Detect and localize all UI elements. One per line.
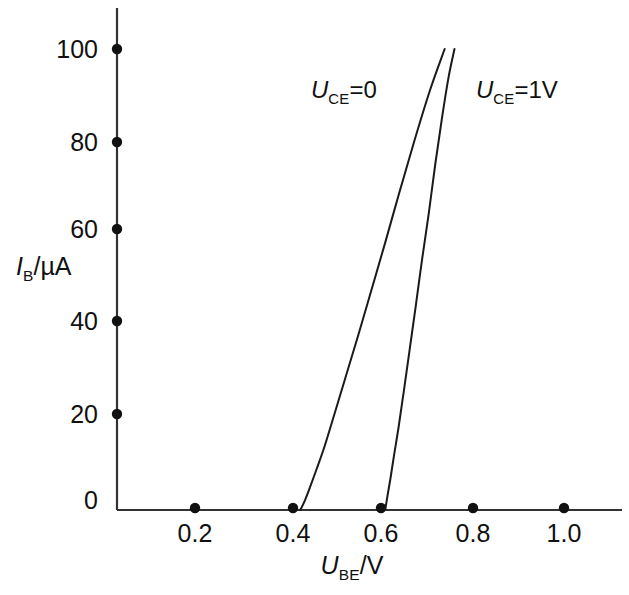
x-axis-title-subscript: BE xyxy=(339,566,360,583)
data-curves xyxy=(300,49,454,510)
x-axis-title-unit: /V xyxy=(360,551,384,579)
y-axis-title-subscript: B xyxy=(23,267,34,284)
curve-annotation-uce-1v-variable: U xyxy=(476,76,493,103)
y-tick-dot xyxy=(112,316,122,326)
curve-annotation-uce-0-value: =0 xyxy=(349,76,376,103)
y-tick-dot xyxy=(112,137,122,147)
y-tick-label-100: 100 xyxy=(40,37,98,62)
x-axis-title: UBE/V xyxy=(321,553,384,583)
y-axis-title-unit: /µA xyxy=(34,252,72,280)
y-tick-label-80: 80 xyxy=(40,130,98,155)
y-tick-dot xyxy=(112,44,122,54)
curve-uce-0 xyxy=(300,49,444,510)
y-tick-dot xyxy=(112,224,122,234)
x-tick-dot xyxy=(190,503,200,513)
x-tick-label-1-0: 1.0 xyxy=(547,521,582,546)
x-tick-label-0-8: 0.8 xyxy=(456,521,491,546)
curve-annotation-uce-0-variable: U xyxy=(311,76,328,103)
curve-annotation-uce-1v-subscript: CE xyxy=(493,91,514,107)
x-tick-label-0-6: 0.6 xyxy=(364,521,399,546)
y-axis-title-variable: I xyxy=(16,252,23,280)
curve-uce-1v xyxy=(385,49,454,510)
x-tick-label-0-4: 0.4 xyxy=(276,521,311,546)
y-axis-title: IB/µA xyxy=(16,254,72,284)
x-axis-tick-markers xyxy=(190,503,569,513)
x-axis-title-variable: U xyxy=(321,551,339,579)
y-tick-label-0: 0 xyxy=(40,488,98,513)
x-tick-dot xyxy=(559,503,569,513)
curve-annotation-uce-0-subscript: CE xyxy=(328,91,349,107)
curve-annotation-uce-1v: UCE=1V xyxy=(476,78,558,107)
y-tick-label-40: 40 xyxy=(40,309,98,334)
x-tick-dot xyxy=(288,503,298,513)
y-tick-label-20: 20 xyxy=(40,402,98,427)
curve-annotation-uce-0: UCE=0 xyxy=(311,78,377,107)
x-tick-label-0-2: 0.2 xyxy=(178,521,213,546)
y-tick-dot xyxy=(112,409,122,419)
curve-annotation-uce-1v-value: =1V xyxy=(514,76,557,103)
x-tick-dot xyxy=(468,503,478,513)
input-characteristic-chart: 100 80 60 40 20 0 0.2 0.4 0.6 0.8 1.0 IB… xyxy=(0,0,629,595)
y-tick-label-60: 60 xyxy=(40,217,98,242)
